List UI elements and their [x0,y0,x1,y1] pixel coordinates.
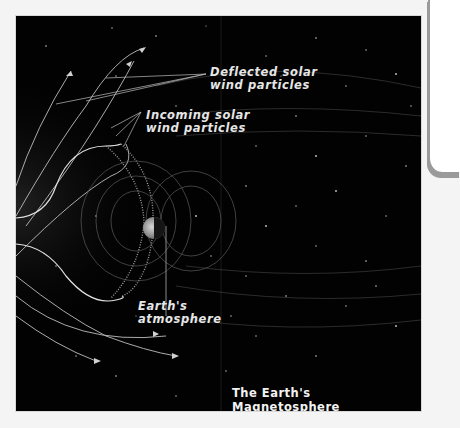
figure-title: The Earth's Magnetosphere [232,386,421,411]
side-panel-edge [428,0,460,172]
deflected-wind-label: Deflected solar wind particles [210,66,318,92]
atmosphere-label: Earth's atmosphere [138,300,222,326]
magnetosphere-diagram: Deflected solar wind particles Incoming … [16,16,421,411]
incoming-wind-label: Incoming solar wind particles [146,109,250,135]
earth-globe-icon [143,217,165,239]
